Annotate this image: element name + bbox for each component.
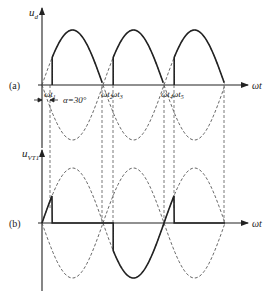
x-axis-b-label: ωt <box>252 218 262 229</box>
ud-axis-label: ud <box>29 6 39 21</box>
uvt1-axis-label: uVT1 <box>22 147 39 162</box>
x-axis-a-label: ωt <box>252 80 262 91</box>
panel-a-ud-waveform <box>52 30 224 85</box>
panel-a-tag: (a) <box>9 80 20 92</box>
guide-lines <box>50 85 224 223</box>
panel-b-uvt1-waveform <box>42 196 225 278</box>
label-alpha: α=30° <box>63 95 87 105</box>
label-wt5: ωt5 <box>172 89 184 100</box>
label-wt3: ωt3 <box>111 89 123 100</box>
rectifier-waveform-diagram: ud (a) ωt ωt1 α=30° ωt2 ωt3 ωt4 ωt5 uVT1… <box>0 0 271 291</box>
panel-b-tag: (b) <box>9 218 21 230</box>
